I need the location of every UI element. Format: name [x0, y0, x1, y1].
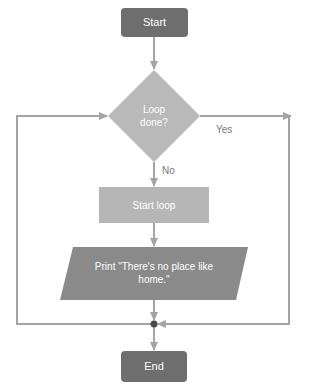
- yes-label: Yes: [216, 124, 232, 135]
- junction-dot: [151, 321, 158, 328]
- process-label: Start loop: [99, 187, 209, 223]
- decision-label-line2: done?: [140, 116, 168, 129]
- io-label-line1: Print "There's no place like: [95, 260, 213, 273]
- io-label-line2: home.": [138, 273, 169, 286]
- decision-label: Loop done?: [108, 96, 200, 136]
- end-label: End: [121, 351, 187, 382]
- io-label: Print "There's no place like home.": [70, 253, 238, 293]
- no-label: No: [162, 165, 175, 176]
- start-label: Start: [121, 8, 188, 37]
- decision-label-line1: Loop: [143, 103, 165, 116]
